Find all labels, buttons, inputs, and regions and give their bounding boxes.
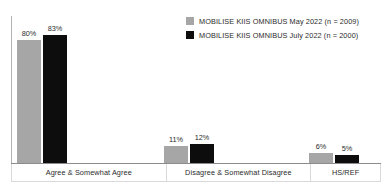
bar-rect-agree-may — [17, 40, 41, 163]
bar-disagree-may[interactable]: 11% — [164, 135, 188, 163]
bar-group-disagree: 11% 12% — [164, 133, 214, 163]
bar-hsref-may[interactable]: 6% — [309, 142, 333, 163]
bar-label-hsref-july: 5% — [342, 144, 353, 153]
category-label-disagree: Disagree & Somewhat Disagree — [167, 164, 312, 181]
bar-chart: MOBILISE KIIS OMNIBUS May 2022 (n = 2009… — [0, 0, 383, 190]
bar-group-hsref: 6% 5% — [309, 142, 359, 163]
category-label-agree: Agree & Somewhat Agree — [12, 164, 167, 181]
bar-agree-may[interactable]: 80% — [17, 29, 41, 163]
bar-label-hsref-may: 6% — [316, 142, 327, 151]
bar-rect-agree-july — [43, 35, 67, 163]
bar-agree-july[interactable]: 83% — [43, 24, 67, 163]
bar-label-agree-july: 83% — [48, 24, 63, 33]
bar-rect-disagree-may — [164, 146, 188, 163]
bar-hsref-july[interactable]: 5% — [335, 144, 359, 163]
bar-label-disagree-may: 11% — [169, 135, 183, 144]
bar-label-disagree-july: 12% — [195, 133, 210, 142]
bar-label-agree-may: 80% — [22, 29, 37, 38]
bar-disagree-july[interactable]: 12% — [190, 133, 214, 163]
category-label-row: Agree & Somewhat Agree Disagree & Somewh… — [11, 164, 381, 182]
bar-group-agree: 80% 83% — [17, 24, 67, 163]
bar-rect-hsref-july — [335, 155, 359, 163]
value-axis-line — [11, 16, 12, 163]
bar-rect-disagree-july — [190, 144, 214, 163]
bar-rect-hsref-may — [309, 153, 333, 163]
category-label-hsref: HS/REF — [311, 164, 381, 181]
